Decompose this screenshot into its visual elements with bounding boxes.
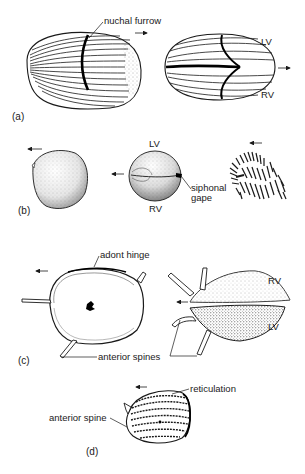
panel-b-lateral-view xyxy=(28,149,88,208)
panel-d-reticulate-valve xyxy=(124,387,190,443)
panel-c: adont hinge RV LV anterior spines (c) xyxy=(18,249,290,366)
panel-label-d: (d) xyxy=(86,446,98,457)
panel-d: reticulation anterior spine (d) xyxy=(49,383,236,457)
panel-b-dorsal-view: LV RV siphonal gape xyxy=(112,138,226,214)
ostracod-figure: nuchal furrow LV RV xyxy=(0,0,305,474)
right-valve-label: RV xyxy=(268,275,282,286)
reticulation-label: reticulation xyxy=(190,383,236,394)
panel-a-dorsal-view: LV RV xyxy=(165,34,290,100)
panel-label-b: (b) xyxy=(18,205,30,216)
panel-a: nuchal furrow LV RV xyxy=(12,15,290,122)
nuchal-furrow-label: nuchal furrow xyxy=(104,15,161,26)
panel-label-a: (a) xyxy=(12,111,24,122)
siphonal-gape-label-line2: gape xyxy=(191,192,212,203)
panel-b-striated-view xyxy=(230,143,286,199)
anterior-spine-label: anterior spine xyxy=(49,412,107,423)
panel-b: LV RV siphonal gape (b) xyxy=(18,138,286,216)
adont-hinge-label: adont hinge xyxy=(100,249,150,260)
left-valve-label: LV xyxy=(261,36,273,47)
panel-c-dorsal-view: RV LV xyxy=(168,268,290,355)
anterior-spines-label: anterior spines xyxy=(98,351,161,362)
panel-label-c: (c) xyxy=(18,355,30,366)
left-valve-label: LV xyxy=(268,321,280,332)
left-valve-label: LV xyxy=(149,138,161,149)
right-valve-label: RV xyxy=(149,203,163,214)
panel-a-lateral-view: nuchal furrow xyxy=(27,15,161,109)
panel-c-lateral-view: adont hinge xyxy=(22,249,150,358)
right-valve-label: RV xyxy=(261,89,275,100)
